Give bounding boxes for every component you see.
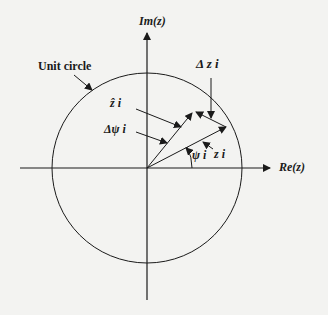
z-hat-pointer bbox=[136, 109, 181, 127]
unit-circle-label: Unit circle bbox=[38, 59, 91, 74]
delta-z-label: Δ z i bbox=[196, 56, 219, 72]
delta-psi-pointer bbox=[136, 132, 167, 143]
psi-label: ψ i bbox=[192, 148, 206, 163]
unit-circle-pointer bbox=[74, 75, 92, 90]
z-hat-label: ẑ i bbox=[110, 96, 121, 111]
diagram-graphics bbox=[0, 0, 328, 315]
real-axis-label: Re(z) bbox=[279, 160, 305, 175]
delta-psi-label: Δψ i bbox=[104, 122, 126, 137]
z-hat-vector bbox=[147, 113, 192, 168]
unit-circle-diagram: Im(z) Re(z) Unit circle Δ z i ẑ i Δψ i ψ… bbox=[0, 0, 328, 315]
imaginary-axis-label: Im(z) bbox=[139, 14, 166, 29]
z-label: z i bbox=[214, 147, 225, 162]
